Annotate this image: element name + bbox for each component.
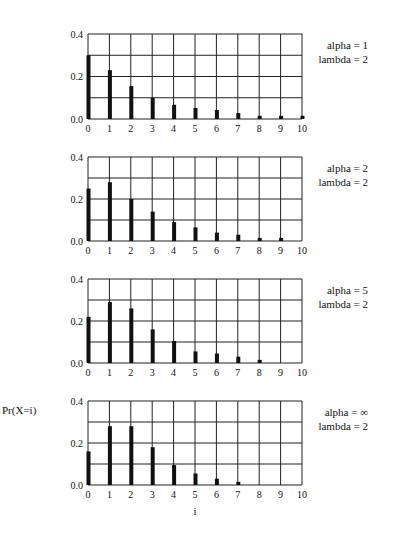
x-tick-label: 4	[171, 245, 176, 256]
figure-canvas: 0.00.20.4012345678910alpha = 1lambda = 2…	[0, 0, 396, 537]
bar-i-9	[279, 116, 283, 119]
x-tick-label: 9	[278, 367, 283, 378]
x-tick-label: 1	[107, 123, 112, 134]
bar-i-0	[87, 451, 91, 485]
lambda-label: lambda = 2	[318, 176, 368, 188]
bar-i-7	[236, 113, 240, 119]
x-tick-label: 7	[235, 367, 240, 378]
y-tick-label: 0.2	[71, 194, 84, 205]
x-tick-label: 3	[150, 367, 155, 378]
x-tick-label: 2	[128, 489, 133, 500]
x-tick-label: 6	[214, 367, 219, 378]
bar-i-4	[172, 222, 176, 241]
y-tick-label: 0.0	[71, 114, 84, 125]
x-tick-label: 10	[297, 123, 307, 134]
x-tick-label: 3	[150, 489, 155, 500]
alpha-label: alpha = 1	[327, 39, 368, 51]
bar-i-5	[194, 351, 198, 363]
bar-i-0	[87, 55, 91, 119]
x-tick-label: 7	[235, 489, 240, 500]
lambda-label: lambda = 2	[318, 298, 368, 310]
bar-i-6	[215, 110, 219, 119]
bar-i-4	[172, 465, 176, 485]
y-tick-label: 0.0	[71, 358, 84, 369]
y-tick-label: 0.0	[71, 236, 84, 247]
bar-i-5	[194, 227, 198, 241]
x-tick-label: 0	[86, 123, 91, 134]
x-tick-label: 8	[257, 489, 262, 500]
bar-i-2	[129, 86, 133, 119]
x-tick-label: 4	[171, 367, 176, 378]
bar-i-2	[129, 426, 133, 485]
chart-panel-1: 0.00.20.4012345678910alpha = 1lambda = 2	[71, 29, 369, 135]
bar-i-10	[301, 116, 305, 119]
bar-i-1	[108, 182, 112, 241]
x-tick-label: 3	[150, 123, 155, 134]
alpha-label: alpha = 2	[327, 162, 368, 174]
bar-i-1	[108, 302, 112, 363]
bar-i-4	[172, 341, 176, 363]
lambda-label: lambda = 2	[318, 53, 368, 65]
bar-i-6	[215, 233, 219, 241]
bar-i-6	[215, 354, 219, 363]
bar-i-9	[279, 238, 283, 241]
x-tick-label: 2	[128, 123, 133, 134]
bar-i-2	[129, 308, 133, 363]
chart-panel-4: 0.00.20.4012345678910alpha = ∞lambda = 2	[71, 396, 369, 501]
x-tick-label: 5	[193, 489, 198, 500]
bar-i-3	[151, 329, 155, 363]
y-tick-label: 0.2	[71, 438, 84, 449]
bar-i-3	[151, 98, 155, 119]
y-tick-label: 0.2	[71, 316, 84, 327]
bar-i-3	[151, 212, 155, 241]
x-tick-label: 9	[278, 245, 283, 256]
x-axis-title: i	[193, 505, 196, 517]
x-tick-label: 2	[128, 245, 133, 256]
x-tick-label: 6	[214, 245, 219, 256]
chart-panel-2: 0.00.20.4012345678910alpha = 2lambda = 2	[71, 152, 369, 257]
x-tick-label: 4	[171, 123, 176, 134]
y-tick-label: 0.4	[71, 152, 84, 163]
y-tick-label: 0.4	[71, 396, 84, 407]
x-tick-label: 0	[86, 245, 91, 256]
chart-panels: 0.00.20.4012345678910alpha = 1lambda = 2…	[71, 29, 369, 501]
y-axis-title: Pr(X=i)	[2, 404, 37, 417]
x-tick-label: 5	[193, 245, 198, 256]
x-tick-label: 9	[278, 123, 283, 134]
y-tick-label: 0.4	[71, 274, 84, 285]
x-tick-label: 5	[193, 367, 198, 378]
y-tick-label: 0.4	[71, 29, 84, 40]
x-tick-label: 7	[235, 123, 240, 134]
y-tick-label: 0.0	[71, 480, 84, 491]
x-tick-label: 2	[128, 367, 133, 378]
alpha-label: alpha = 5	[327, 284, 369, 296]
bar-i-2	[129, 199, 133, 241]
bar-i-4	[172, 105, 176, 119]
x-tick-label: 6	[214, 123, 219, 134]
bar-i-1	[108, 426, 112, 485]
x-tick-label: 4	[171, 489, 176, 500]
bar-i-7	[236, 235, 240, 241]
x-tick-label: 0	[86, 367, 91, 378]
y-tick-label: 0.2	[71, 71, 84, 82]
bar-i-0	[87, 317, 91, 363]
x-tick-label: 6	[214, 489, 219, 500]
bar-i-5	[194, 473, 198, 485]
alpha-label: alpha = ∞	[325, 406, 369, 418]
x-tick-label: 5	[193, 123, 198, 134]
bar-i-7	[236, 482, 240, 485]
x-tick-label: 1	[107, 489, 112, 500]
x-tick-label: 9	[278, 489, 283, 500]
bar-i-8	[258, 360, 262, 363]
bar-i-7	[236, 357, 240, 363]
bar-i-8	[258, 238, 262, 241]
x-tick-label: 10	[297, 245, 307, 256]
x-tick-label: 10	[297, 367, 307, 378]
x-tick-label: 3	[150, 245, 155, 256]
x-tick-label: 8	[257, 245, 262, 256]
bar-i-3	[151, 447, 155, 485]
x-tick-label: 8	[257, 123, 262, 134]
x-tick-label: 1	[107, 245, 112, 256]
x-tick-label: 10	[297, 489, 307, 500]
bar-i-1	[108, 70, 112, 119]
